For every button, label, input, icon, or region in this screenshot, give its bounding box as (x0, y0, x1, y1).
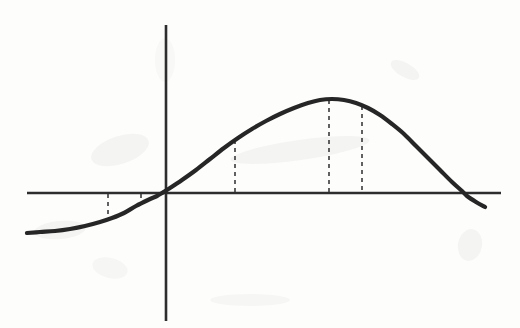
graph-canvas (0, 0, 520, 328)
paper-smudge (210, 294, 290, 306)
graph-figure (0, 0, 520, 328)
paper-background (0, 0, 520, 328)
